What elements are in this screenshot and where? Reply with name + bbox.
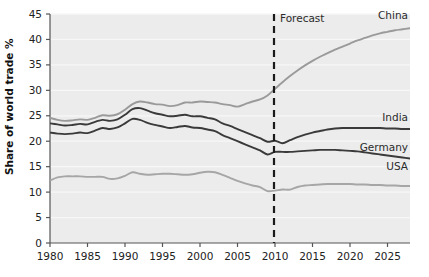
chart-container: Forecast 051015202530354045 198019851990… — [0, 0, 429, 277]
y-tick-label: 40 — [29, 33, 42, 45]
forecast-label: Forecast — [280, 12, 324, 24]
y-tick-label: 15 — [29, 160, 42, 172]
series-label-usa: USA — [386, 160, 409, 172]
y-tick-label: 10 — [29, 186, 42, 198]
y-tick-label: 5 — [35, 211, 42, 223]
x-tick-label: 2020 — [337, 250, 364, 262]
x-tick-label: 2000 — [187, 250, 214, 262]
x-tick-label: 1995 — [149, 250, 176, 262]
y-tick-label: 45 — [29, 8, 42, 20]
y-tick-label: 35 — [29, 58, 42, 70]
x-tick-label: 2005 — [224, 250, 251, 262]
x-tick-label: 1980 — [37, 250, 64, 262]
y-tick-label: 25 — [29, 109, 42, 121]
y-axis-title: Share of world trade % — [3, 38, 15, 175]
y-tick-label: 20 — [29, 135, 42, 147]
world-trade-share-line-chart: Forecast 051015202530354045 198019851990… — [0, 0, 429, 277]
series-label-germany: Germany — [360, 141, 408, 153]
series-label-china: China — [378, 9, 408, 21]
x-axis-tick-labels: 1980198519901995200020052010201520202025 — [37, 250, 401, 262]
x-tick-label: 2010 — [262, 250, 289, 262]
y-axis-tick-labels: 051015202530354045 — [29, 8, 42, 249]
x-tick-label: 2025 — [374, 250, 401, 262]
x-axis-tick-marks — [50, 243, 388, 247]
x-tick-label: 2015 — [299, 250, 326, 262]
x-tick-label: 1985 — [74, 250, 101, 262]
y-tick-label: 30 — [29, 84, 42, 96]
y-tick-label: 0 — [35, 237, 42, 249]
x-tick-label: 1990 — [112, 250, 139, 262]
series-label-india: India — [382, 111, 408, 123]
